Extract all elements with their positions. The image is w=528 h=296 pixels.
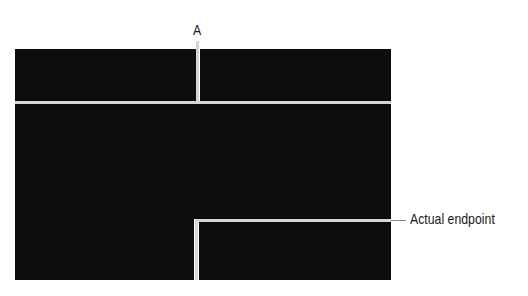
top-block-right — [200, 49, 391, 101]
lower-block-main — [15, 104, 391, 219]
label-a: A — [193, 22, 201, 38]
label-actual-endpoint: Actual endpoint — [410, 211, 495, 227]
endpoint-leader-line — [391, 220, 406, 221]
endpoint-line-horizontal — [195, 219, 391, 222]
top-block-left — [15, 49, 196, 101]
lower-block-right — [199, 222, 391, 280]
diagram-canvas: A Actual endpoint — [0, 0, 528, 296]
endpoint-line-vertical — [195, 219, 198, 280]
lower-block-left — [15, 219, 194, 280]
line-a-vertical — [196, 41, 199, 103]
